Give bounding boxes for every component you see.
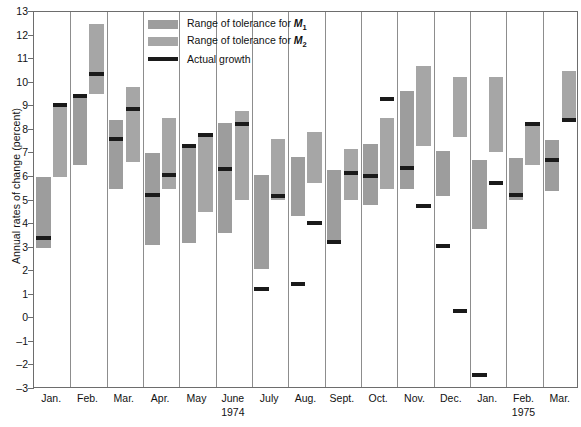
tolerance-range-bar-m1 — [400, 91, 415, 189]
column-separator — [216, 12, 217, 387]
tolerance-range-bar-m2 — [271, 139, 286, 200]
actual-growth-marker-m1 — [182, 144, 197, 148]
column-separator — [143, 12, 144, 387]
x-axis-month-label: Jan. — [469, 392, 505, 404]
actual-growth-marker-m1 — [545, 158, 560, 162]
tolerance-range-bar-m2 — [53, 104, 68, 177]
y-axis-tick-label: 0 — [6, 311, 28, 323]
legend-item-actual: Actual growth — [148, 51, 307, 66]
x-axis-month-label: Apr. — [142, 392, 178, 404]
tolerance-range-bar-m2 — [307, 132, 322, 183]
tolerance-range-bar-m2 — [453, 77, 468, 137]
x-axis-year-label: 1974 — [215, 406, 251, 418]
actual-growth-marker-m1 — [400, 166, 415, 170]
y-axis-tick-label: –1 — [6, 335, 28, 347]
tolerance-range-bar-m1 — [218, 123, 233, 234]
column-separator — [325, 12, 326, 387]
actual-growth-marker-m1 — [109, 137, 124, 141]
tolerance-range-bar-m2 — [162, 118, 177, 189]
actual-growth-marker-m2 — [162, 173, 177, 177]
legend-item-m2: Range of tolerance for M2 — [148, 34, 307, 49]
tolerance-range-bar-m1 — [436, 151, 451, 196]
column-separator — [252, 12, 253, 387]
x-axis-month-label: Mar. — [542, 392, 578, 404]
y-axis-tick-label: 1 — [6, 288, 28, 300]
actual-growth-marker-m2 — [562, 118, 577, 122]
actual-growth-marker-m2 — [380, 97, 395, 101]
legend-swatch-m2 — [148, 37, 178, 46]
actual-growth-marker-m2 — [126, 107, 141, 111]
x-axis-month-label: Jan. — [33, 392, 69, 404]
y-axis-tick-labels: 131211109876543210–1–2–3 — [0, 11, 28, 388]
tolerance-range-bar-m1 — [109, 120, 124, 188]
column-separator — [70, 12, 71, 387]
column-separator — [470, 12, 471, 387]
y-axis-tick-label: 4 — [6, 217, 28, 229]
actual-growth-marker-m1 — [363, 174, 378, 178]
actual-growth-marker-m2 — [271, 194, 286, 198]
tolerance-range-bar-m1 — [291, 157, 306, 216]
column-separator — [361, 12, 362, 387]
actual-growth-marker-m2 — [489, 181, 504, 185]
actual-growth-marker-m2 — [416, 204, 431, 208]
legend-label-m1: Range of tolerance for M1 — [187, 17, 307, 32]
y-axis-tick-label: 5 — [6, 194, 28, 206]
tolerance-range-bar-m2 — [562, 71, 577, 122]
y-axis-tick-label: 2 — [6, 264, 28, 276]
actual-growth-marker-m2 — [198, 133, 213, 137]
actual-growth-marker-m2 — [89, 72, 104, 76]
tolerance-range-bar-m2 — [380, 118, 395, 189]
x-axis-month-label: July — [251, 392, 287, 404]
tolerance-range-bar-m2 — [525, 123, 540, 165]
actual-growth-marker-m2 — [344, 171, 359, 175]
x-axis-month-label: Oct. — [360, 392, 396, 404]
column-separator — [288, 12, 289, 387]
actual-growth-marker-m2 — [525, 122, 540, 126]
actual-growth-marker-m1 — [145, 193, 160, 197]
actual-growth-marker-m1 — [254, 287, 269, 291]
actual-growth-marker-m1 — [509, 193, 524, 197]
y-axis-tick-label: –2 — [6, 358, 28, 370]
tolerance-range-bar-m2 — [489, 77, 504, 152]
tolerance-range-bar-m2 — [416, 66, 431, 146]
column-separator — [179, 12, 180, 387]
x-axis-month-label: June — [215, 392, 251, 404]
column-separator — [434, 12, 435, 387]
x-axis-year-label: 1975 — [505, 406, 541, 418]
tolerance-range-bar-m1 — [472, 160, 487, 228]
y-axis-tick-label: 13 — [6, 5, 28, 17]
y-axis-tick-label: 12 — [6, 29, 28, 41]
actual-growth-marker-m2 — [235, 122, 250, 126]
actual-growth-marker-m1 — [291, 282, 306, 286]
y-axis-tick-label: 11 — [6, 52, 28, 64]
tolerance-range-bar-m1 — [145, 153, 160, 245]
actual-growth-marker-m1 — [472, 373, 487, 377]
legend-swatch-actual — [148, 57, 178, 61]
y-axis-tick — [28, 388, 34, 389]
tolerance-range-bar-m1 — [254, 175, 269, 269]
y-axis-tick-label: 8 — [6, 123, 28, 135]
y-axis-tick-label: 3 — [6, 241, 28, 253]
tolerance-range-bar-m1 — [327, 170, 342, 242]
tolerance-range-bar-m1 — [73, 94, 88, 165]
x-axis-month-label: Mar. — [106, 392, 142, 404]
tolerance-range-bar-m1 — [545, 140, 560, 191]
legend-swatch-m1 — [148, 20, 178, 29]
actual-growth-marker-m2 — [53, 103, 68, 107]
tolerance-range-bar-m1 — [182, 145, 197, 243]
tolerance-range-bar-m2 — [89, 24, 104, 95]
actual-growth-marker-m2 — [453, 309, 468, 313]
y-axis-tick-label: 7 — [6, 146, 28, 158]
column-separator — [107, 12, 108, 387]
x-axis-month-label: Dec. — [433, 392, 469, 404]
actual-growth-marker-m1 — [73, 94, 88, 98]
column-separator — [506, 12, 507, 387]
legend-label-actual: Actual growth — [187, 53, 251, 65]
legend: Range of tolerance for M1 Range of toler… — [148, 17, 307, 68]
y-axis-tick-label: 10 — [6, 76, 28, 88]
y-axis-tick-label: 6 — [6, 170, 28, 182]
x-axis-month-label: Nov. — [396, 392, 432, 404]
column-separator — [397, 12, 398, 387]
legend-label-m2: Range of tolerance for M2 — [187, 34, 307, 49]
actual-growth-marker-m1 — [36, 236, 51, 240]
